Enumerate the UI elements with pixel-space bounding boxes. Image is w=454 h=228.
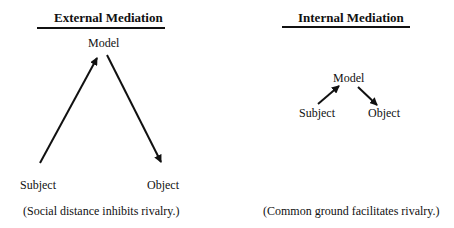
external-model-to-object-arrow: [107, 55, 161, 162]
arrows-layer: [0, 0, 454, 228]
internal-model-to-object-arrow: [358, 87, 377, 105]
internal-subject-to-model-arrow: [318, 86, 339, 104]
external-subject-to-model-arrow: [40, 58, 97, 163]
